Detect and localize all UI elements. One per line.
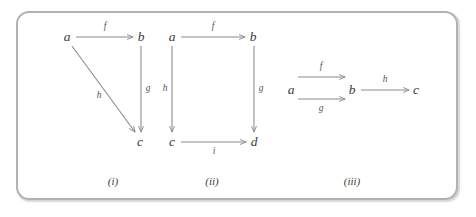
- edge-label-ii-g: g: [259, 84, 264, 94]
- edge-label-iii-g: g: [319, 104, 324, 114]
- edge-label-i-h: h: [97, 91, 102, 101]
- edge-label-i-f: f: [104, 22, 107, 32]
- edge-label-i-g: g: [146, 84, 151, 94]
- node-i-b: b: [138, 30, 145, 44]
- node-iii-c: c: [413, 83, 419, 97]
- node-ii-d: d: [251, 135, 258, 149]
- edge-label-ii-f: f: [212, 22, 215, 32]
- node-ii-c: c: [169, 135, 175, 149]
- panel-caption-ii: (ii): [205, 176, 218, 187]
- diagram-canvas: [0, 0, 476, 217]
- edge-label-iii-f: f: [320, 62, 323, 72]
- edge-label-ii-h: h: [163, 84, 168, 94]
- node-iii-b: b: [349, 83, 356, 97]
- edge-label-iii-h: h: [383, 75, 388, 85]
- node-i-a: a: [64, 30, 71, 44]
- node-i-c: c: [137, 135, 143, 149]
- arrow-i-h: [72, 46, 135, 132]
- edge-lines: [72, 37, 409, 142]
- node-ii-a: a: [169, 30, 176, 44]
- node-iii-a: a: [288, 83, 295, 97]
- panel-caption-iii: (iii): [344, 176, 361, 187]
- edge-label-ii-i: i: [213, 147, 216, 157]
- node-ii-b: b: [250, 30, 257, 44]
- panel-caption-i: (i): [108, 176, 118, 187]
